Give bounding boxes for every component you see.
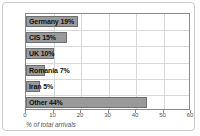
bar-row: Iran 5% [26, 79, 191, 95]
bar-value-label: Romania 7% [29, 65, 70, 76]
bar-value-label: Other 44% [29, 97, 63, 108]
chart-frame: Germany 19%CIS 15%UK 10%Romania 7%Iran 5… [2, 2, 195, 131]
bar-value-label: CIS 15% [29, 32, 56, 43]
x-tick-label: 10 [49, 112, 56, 118]
x-tick-label: 30 [104, 112, 111, 118]
bar-row: Germany 19% [26, 14, 191, 30]
x-tick-label: 40 [132, 112, 139, 118]
bar-row: Romania 7% [26, 63, 191, 79]
x-axis-title: % of total arrivals [26, 121, 76, 128]
bar-row: CIS 15% [26, 30, 191, 46]
bar-row: Other 44% [26, 95, 191, 111]
bar-value-label: UK 10% [29, 48, 54, 59]
x-tick-label: 0 [23, 112, 26, 118]
x-tick-label: 20 [77, 112, 84, 118]
chart-screenshot: Germany 19%CIS 15%UK 10%Romania 7%Iran 5… [0, 0, 200, 136]
x-tick-label: 50 [159, 112, 166, 118]
bar-series: Germany 19%CIS 15%UK 10%Romania 7%Iran 5… [26, 14, 189, 109]
plot-area: Germany 19%CIS 15%UK 10%Romania 7%Iran 5… [25, 13, 190, 110]
x-tick-label: 60 [187, 112, 194, 118]
bar-row: UK 10% [26, 46, 191, 62]
bar-value-label: Iran 5% [29, 81, 53, 92]
bar-value-label: Germany 19% [29, 16, 74, 27]
